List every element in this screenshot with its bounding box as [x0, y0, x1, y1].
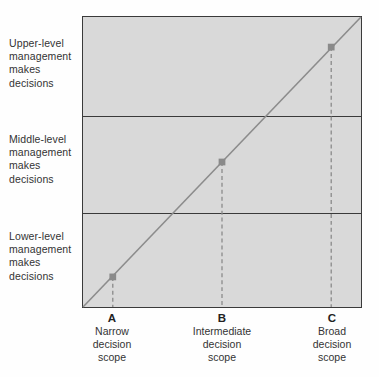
x-tick-a-line3: scope [64, 351, 160, 364]
trend-line-svg [83, 17, 361, 307]
decision-scope-chart-figure: Upper-levelmanagementmakesdecisions Midd… [0, 0, 379, 377]
x-tick-a-letter: A [64, 311, 160, 325]
data-point-c [328, 44, 335, 51]
data-point-b [219, 159, 226, 166]
plot-area [82, 16, 362, 308]
data-point-a [109, 274, 116, 281]
x-tick-b-line2: decision [174, 338, 270, 351]
x-tick-c-line1: Broad [284, 325, 379, 338]
x-tick-c: C Broad decision scope [284, 311, 379, 365]
x-tick-a-line1: Narrow [64, 325, 160, 338]
x-tick-a: A Narrow decision scope [64, 311, 160, 365]
band-label-middle-level: Middle-levelmanagementmakesdecisions [9, 133, 81, 186]
x-tick-c-line3: scope [284, 351, 379, 364]
x-tick-c-letter: C [284, 311, 379, 325]
x-tick-b-letter: B [174, 311, 270, 325]
x-tick-b-line3: scope [174, 351, 270, 364]
x-tick-a-line2: decision [64, 338, 160, 351]
band-label-lower-level: Lower-levelmanagementmakesdecisions [9, 230, 81, 283]
x-tick-b: B Intermediate decision scope [174, 311, 270, 365]
x-tick-c-line2: decision [284, 338, 379, 351]
band-label-upper-level: Upper-levelmanagementmakesdecisions [9, 37, 81, 90]
x-tick-b-line1: Intermediate [174, 325, 270, 338]
